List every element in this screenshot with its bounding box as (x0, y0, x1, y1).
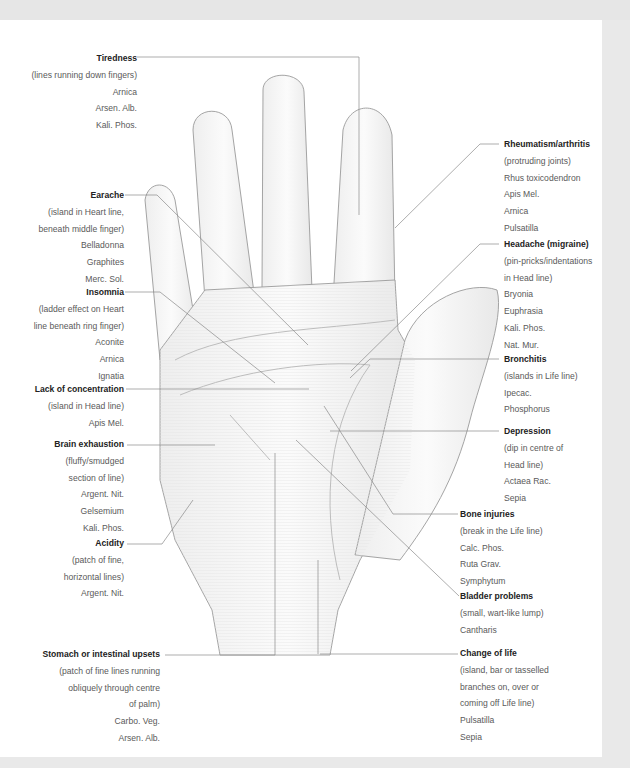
remedy: Ruta Grav. (460, 556, 543, 573)
label-title: Stomach or intestinal upsets (43, 646, 160, 663)
remedy: Phosphorus (504, 401, 578, 418)
label-description: beneath middle finger) (38, 221, 124, 238)
remedy: Gelsemium (54, 503, 124, 520)
remedy: Sepia (460, 729, 549, 746)
remedy: Pulsatilla (504, 220, 590, 237)
label-description: (patch of fine lines running (43, 663, 160, 680)
label-lack-of-concentration: Lack of concentration (island in Head li… (35, 381, 124, 431)
label-acidity: Acidity (patch of fine, horizontal lines… (64, 535, 124, 602)
label-title: Acidity (64, 535, 124, 552)
label-title: Earache (38, 187, 124, 204)
remedy: Aconite (34, 334, 124, 351)
label-description: (break in the Life line) (460, 523, 543, 540)
label-bronchitis: Bronchitis (islands in Life line) Ipecac… (504, 351, 578, 418)
remedy: Kali. Phos. (504, 320, 592, 337)
label-description: branches on, over or (460, 679, 549, 696)
remedy: Sepia (504, 490, 563, 507)
remedy: Ipecac. (504, 385, 578, 402)
remedy: Arnica (504, 203, 590, 220)
label-bladder-problems: Bladder problems (small, wart-like lump)… (460, 588, 544, 638)
label-title: Rheumatism/arthritis (504, 136, 590, 153)
label-title: Headache (migraine) (504, 236, 592, 253)
remedy: Calc. Phos. (460, 540, 543, 557)
label-description: of palm) (43, 696, 160, 713)
label-description: (patch of fine, (64, 552, 124, 569)
remedy: Cantharis (460, 622, 544, 639)
remedy: Apis Mel. (35, 415, 124, 432)
label-tiredness: Tiredness (lines running down fingers) A… (31, 50, 137, 134)
label-title: Tiredness (31, 50, 137, 67)
remedy: Arsen. Alb. (43, 730, 160, 747)
remedy: Bryonia (504, 286, 592, 303)
label-title: Bronchitis (504, 351, 578, 368)
label-title: Depression (504, 423, 563, 440)
remedy: Graphites (38, 254, 124, 271)
label-description: (small, wart-like lump) (460, 605, 544, 622)
label-description: (lines running down fingers) (31, 67, 137, 84)
label-description: line beneath ring finger) (34, 318, 124, 335)
remedy: Euphrasia (504, 303, 592, 320)
label-title: Insomnia (34, 284, 124, 301)
label-earache: Earache (island in Heart line, beneath m… (38, 187, 124, 288)
label-title: Bone injuries (460, 506, 543, 523)
label-title: Change of life (460, 645, 549, 662)
remedy: Kali. Phos. (31, 117, 137, 134)
remedy: Actaea Rac. (504, 473, 563, 490)
label-headache: Headache (migraine) (pin-pricks/indentat… (504, 236, 592, 354)
label-bone-injuries: Bone injuries (break in the Life line) C… (460, 506, 543, 590)
label-title: Brain exhaustion (54, 436, 124, 453)
label-description: (protruding joints) (504, 153, 590, 170)
remedy: Arsen. Alb. (31, 100, 137, 117)
remedy: Arnica (31, 84, 137, 101)
label-description: (fluffy/smudged (54, 453, 124, 470)
label-description: (dip in centre of (504, 440, 563, 457)
remedy: Belladonna (38, 237, 124, 254)
label-description: (ladder effect on Heart (34, 301, 124, 318)
label-description: horizontal lines) (64, 569, 124, 586)
label-description: coming off Life line) (460, 695, 549, 712)
label-description: (pin-pricks/indentations (504, 253, 592, 270)
label-description: obliquely through centre (43, 680, 160, 697)
remedy: Rhus toxicodendron (504, 170, 590, 187)
label-depression: Depression (dip in centre of Head line) … (504, 423, 563, 507)
label-description: in Head line) (504, 270, 592, 287)
label-change-of-life: Change of life (island, bar or tasselled… (460, 645, 549, 746)
label-description: section of line) (54, 470, 124, 487)
remedy: Argent. Nit. (54, 486, 124, 503)
remedy: Carbo. Veg. (43, 713, 160, 730)
label-title: Bladder problems (460, 588, 544, 605)
label-description: (island, bar or tasselled (460, 662, 549, 679)
label-brain-exhaustion: Brain exhaustion (fluffy/smudged section… (54, 436, 124, 537)
label-description: Head line) (504, 457, 563, 474)
label-description: (island in Heart line, (38, 204, 124, 221)
label-description: (islands in Life line) (504, 368, 578, 385)
remedy: Arnica (34, 351, 124, 368)
remedy: Argent. Nit. (64, 585, 124, 602)
label-insomnia: Insomnia (ladder effect on Heart line be… (34, 284, 124, 385)
remedy: Pulsatilla (460, 712, 549, 729)
label-rheumatism: Rheumatism/arthritis (protruding joints)… (504, 136, 590, 237)
remedy: Apis Mel. (504, 186, 590, 203)
label-title: Lack of concentration (35, 381, 124, 398)
label-description: (island in Head line) (35, 398, 124, 415)
label-stomach-upsets: Stomach or intestinal upsets (patch of f… (43, 646, 160, 747)
